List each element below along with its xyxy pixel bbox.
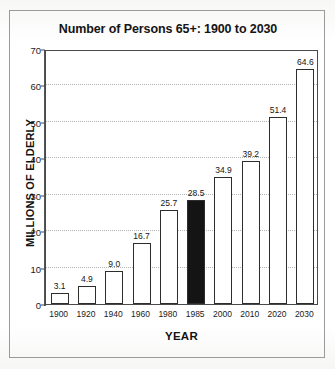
bar-group: 16.7 [133, 49, 151, 304]
x-tick-label: 2000 [213, 309, 232, 319]
bar-value-label: 51.4 [270, 105, 287, 115]
y-tick-label: 70 [15, 45, 41, 56]
bar-value-label: 64.6 [297, 57, 314, 67]
x-axis-ticks: 1900192019401960198019852000201020202030 [45, 309, 318, 323]
x-tick-label: 2030 [295, 309, 314, 319]
bar-group: 25.7 [160, 49, 178, 304]
bar-value-label: 16.7 [133, 231, 150, 241]
bar[interactable] [296, 69, 314, 304]
bar-group: 51.4 [269, 49, 287, 304]
bar[interactable] [105, 271, 123, 304]
y-axis-title: MILLIONS OF ELDERLY [24, 78, 36, 288]
bar[interactable] [51, 293, 69, 304]
x-tick-label: 1920 [76, 309, 95, 319]
bar-group: 39.2 [242, 49, 260, 304]
bar[interactable] [160, 210, 178, 304]
x-tick-label: 1900 [49, 309, 68, 319]
bar[interactable] [214, 177, 232, 304]
x-axis-title: YEAR [45, 330, 318, 342]
bar-group: 28.5 [187, 49, 205, 304]
bar-value-label: 3.1 [54, 281, 66, 291]
bar-value-label: 25.7 [161, 198, 178, 208]
bar[interactable] [242, 161, 260, 304]
x-tick-label: 1985 [186, 309, 205, 319]
x-tick-label: 2020 [268, 309, 287, 319]
bar-group: 34.9 [214, 49, 232, 304]
bar-value-label: 39.2 [242, 149, 259, 159]
x-tick-label: 2010 [240, 309, 259, 319]
x-tick-label: 1940 [104, 309, 123, 319]
bar-group: 3.1 [51, 49, 69, 304]
x-tick-label: 1980 [158, 309, 177, 319]
x-tick-label: 1960 [131, 309, 150, 319]
bar-value-label: 4.9 [81, 274, 93, 284]
plot-area: 3.14.99.016.725.728.534.939.251.464.6 [45, 50, 318, 305]
bar-series: 3.14.99.016.725.728.534.939.251.464.6 [46, 51, 317, 304]
chart-title: Number of Persons 65+: 1900 to 2030 [18, 22, 318, 36]
bar-group: 9.0 [105, 49, 123, 304]
figure: Number of Persons 65+: 1900 to 2030 0102… [0, 0, 335, 369]
bar-group: 64.6 [296, 49, 314, 304]
bar-value-label: 9.0 [108, 259, 120, 269]
bar-group: 4.9 [78, 49, 96, 304]
bar-value-label: 28.5 [188, 188, 205, 198]
bar[interactable] [133, 243, 151, 304]
y-tick-label: 0 [15, 300, 41, 311]
bar[interactable] [78, 286, 96, 304]
bar[interactable] [187, 200, 205, 304]
bar-value-label: 34.9 [215, 165, 232, 175]
bar[interactable] [269, 117, 287, 304]
